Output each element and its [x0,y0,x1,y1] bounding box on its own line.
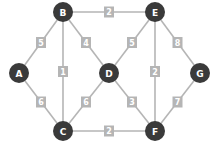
svg-text:1: 1 [60,68,66,77]
nodes-layer: ABCDEFG [9,2,210,141]
edge-weight-B-C: 1 [58,66,68,77]
edge-weight-E-F: 2 [150,66,160,77]
edge-weight-B-D: 4 [81,37,91,48]
edge-weight-D-E: 5 [127,37,137,48]
edge-weight-A-C: 6 [36,97,46,108]
weighted-graph-diagram: 561426253287 ABCDEFG [0,0,215,144]
svg-text:6: 6 [83,98,89,107]
svg-text:6: 6 [38,98,44,107]
svg-text:7: 7 [175,98,181,107]
edge-weight-C-D: 6 [81,97,91,108]
node-A: A [9,63,29,83]
svg-text:8: 8 [175,39,181,48]
svg-text:G: G [196,69,203,79]
svg-text:4: 4 [83,39,89,48]
svg-text:2: 2 [152,68,158,77]
svg-text:B: B [60,8,67,18]
edge-weight-D-F: 3 [127,97,137,108]
edge-weight-B-E: 2 [104,7,114,18]
node-D: D [99,63,119,83]
svg-text:C: C [60,127,67,137]
svg-text:5: 5 [38,39,44,48]
edge-weight-E-G: 8 [173,37,183,48]
node-C: C [53,121,73,141]
svg-text:A: A [16,69,23,79]
svg-text:5: 5 [129,39,135,48]
svg-text:2: 2 [106,8,112,17]
svg-text:2: 2 [106,127,112,136]
svg-text:3: 3 [129,98,135,107]
edge-weight-A-B: 5 [36,37,46,48]
svg-text:F: F [152,127,158,137]
node-G: G [190,63,210,83]
svg-text:E: E [152,8,158,18]
edge-weight-F-G: 7 [173,97,183,108]
node-E: E [145,2,165,22]
node-B: B [53,2,73,22]
edge-weight-C-F: 2 [104,126,114,137]
svg-text:D: D [105,69,112,79]
node-F: F [145,121,165,141]
